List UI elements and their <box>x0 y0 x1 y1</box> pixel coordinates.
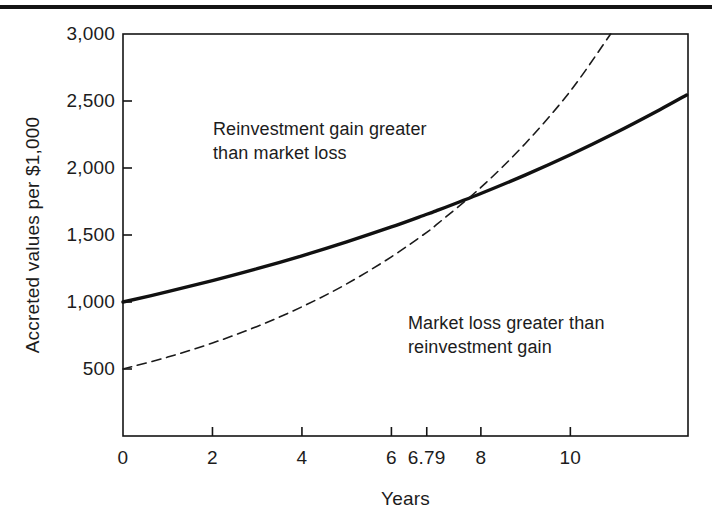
x-tick-label: 4 <box>262 448 342 467</box>
y-tick-label: 2,000 <box>66 158 115 177</box>
x-axis-title: Years <box>123 488 688 510</box>
plot-frame <box>123 34 688 436</box>
y-tick-label: 1,000 <box>66 292 115 311</box>
y-tick-label: 1,500 <box>66 225 115 244</box>
x-tick-label: 0 <box>83 448 163 467</box>
y-tick-label: 500 <box>83 359 115 378</box>
x-tick-label: 2 <box>172 448 252 467</box>
annotation-market-loss: Market loss greater than reinvestment ga… <box>408 311 605 359</box>
x-tick-label: 8 <box>441 448 521 467</box>
annotation-reinvestment-gain: Reinvestment gain greater than market lo… <box>213 117 427 165</box>
y-axis-title-text: Accreted values per $1,000 <box>22 117 44 354</box>
x-tick-label: 10 <box>530 448 610 467</box>
y-axis-title: Accreted values per $1,000 <box>10 0 56 470</box>
chart-figure: Accreted values per $1,000 Years 5001,00… <box>0 0 712 532</box>
y-tick-label: 2,500 <box>66 91 115 110</box>
y-tick-label: 3,000 <box>66 24 115 43</box>
